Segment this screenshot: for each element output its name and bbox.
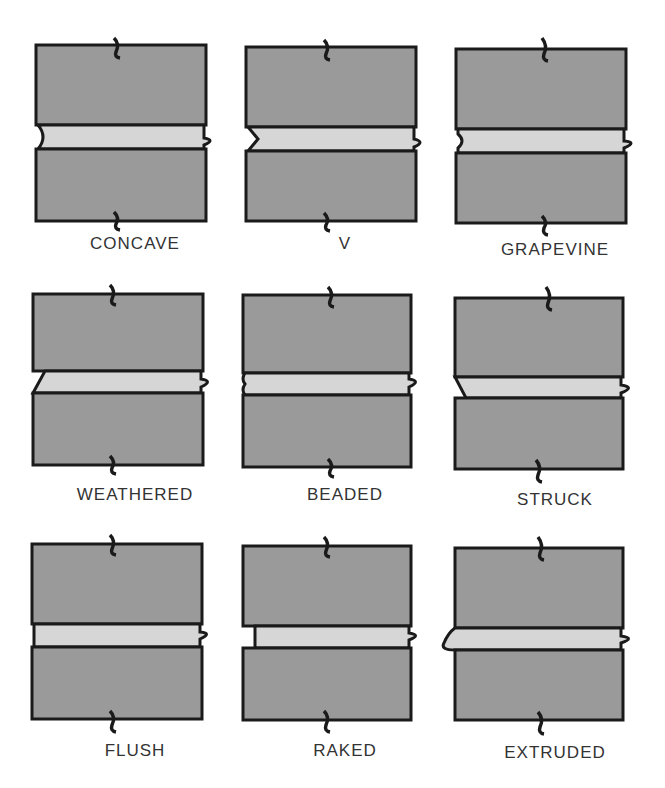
concave-joint-diagram: [30, 8, 240, 208]
flush-joint-diagram: [30, 505, 240, 705]
joint-panel-grapevine: GRAPEVINE: [450, 8, 660, 248]
struck-joint-diagram: [450, 255, 660, 455]
joint-label: V: [240, 234, 450, 254]
weathered-joint-diagram: [30, 255, 240, 455]
beaded-joint-diagram: [240, 255, 450, 455]
joint-panel-v: V: [240, 8, 450, 248]
joint-label: WEATHERED: [30, 485, 240, 505]
grapevine-joint-diagram: [450, 8, 660, 208]
joint-label: RAKED: [240, 741, 450, 761]
joint-panel-raked: RAKED: [240, 505, 450, 745]
joint-label: CONCAVE: [30, 234, 240, 254]
joint-panel-concave: CONCAVE: [30, 8, 240, 248]
joint-label: EXTRUDED: [450, 743, 660, 763]
joint-panel-struck: STRUCK: [450, 255, 660, 495]
joint-panel-weathered: WEATHERED: [30, 255, 240, 495]
joint-label: FLUSH: [30, 741, 240, 761]
joint-panel-flush: FLUSH: [30, 505, 240, 745]
joint-label: BEADED: [240, 485, 450, 505]
joint-panel-beaded: BEADED: [240, 255, 450, 495]
joint-panel-extruded: EXTRUDED: [450, 505, 660, 745]
v-joint-diagram: [240, 8, 450, 208]
extruded-joint-diagram: [450, 505, 660, 705]
raked-joint-diagram: [240, 505, 450, 705]
